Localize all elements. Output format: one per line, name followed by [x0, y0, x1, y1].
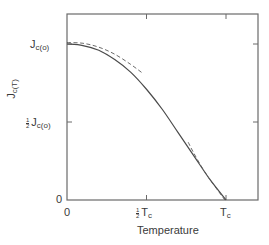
- chart-series: [67, 43, 226, 201]
- fraction-den: 2: [26, 124, 29, 129]
- x-tick-main: T: [220, 206, 227, 218]
- axis-ticks: [67, 14, 258, 200]
- plot-border: [67, 14, 258, 200]
- y-tick-main: J: [30, 38, 36, 50]
- fraction-num: 1: [26, 118, 29, 123]
- y-tick-label-zero: 0: [56, 193, 62, 205]
- fraction-half: 12: [136, 208, 139, 219]
- fraction-den: 2: [136, 214, 139, 219]
- x-tick-label-tc: Tc: [220, 206, 231, 220]
- x-axis-title: Temperature: [137, 224, 199, 236]
- y-title-main: J: [5, 93, 17, 99]
- x-tick-label-zero: 0: [64, 206, 70, 218]
- y-tick-label-half-jc0: 12Jc(o): [26, 116, 51, 130]
- y-tick-label-jc0: Jc(o): [30, 38, 49, 52]
- fraction-num: 1: [136, 208, 139, 213]
- solid-curve: [67, 44, 226, 200]
- dashed-curve: [67, 43, 143, 74]
- x-tick-label-half-tc: 12Tc: [136, 206, 152, 220]
- y-title-sub: c(T): [10, 79, 19, 93]
- fraction-half: 12: [26, 118, 29, 129]
- y-tick-sub: c(o): [37, 121, 51, 130]
- x-tick-sub: c: [227, 211, 231, 220]
- chart-frame: [67, 14, 258, 200]
- x-tick-sub: c: [148, 211, 152, 220]
- y-tick-sub: c(o): [36, 43, 50, 52]
- y-axis-title: Jc(T): [5, 79, 19, 99]
